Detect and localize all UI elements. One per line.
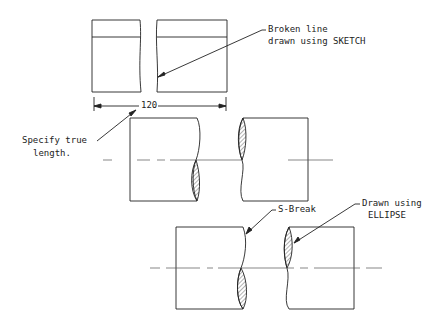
top-right-block: [156, 20, 227, 92]
drawing-canvas: Broken line drawn using SKETCH 120 Speci…: [0, 0, 445, 326]
specify-note-2: length.: [33, 148, 71, 159]
ellipse-note-2: ELLIPSE: [368, 210, 406, 221]
middle-shaft-right: [238, 118, 308, 201]
top-left-block: [92, 20, 141, 92]
ellipse-note-1: Drawn using: [362, 198, 422, 209]
middle-shaft-left: [130, 118, 200, 201]
broken-line-note-1: Broken line: [268, 24, 328, 35]
technical-drawing: [0, 0, 445, 326]
dimension-line: [94, 97, 226, 111]
s-break-label: S-Break: [278, 204, 316, 215]
dimension-value: 120: [140, 100, 158, 111]
specify-note-1: Specify true: [22, 135, 87, 146]
broken-line-note-2: drawn using SKETCH: [268, 36, 366, 47]
